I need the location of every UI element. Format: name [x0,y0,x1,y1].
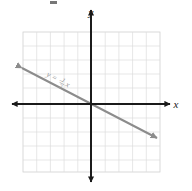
scan-artifact-speck [50,1,57,4]
x-axis-label: x [173,98,179,110]
coordinate-plane-figure: x y y = − 1 2 x [0,0,192,191]
graph-canvas: x y y = − 1 2 x [0,0,192,191]
y-axis-label: y [88,6,94,18]
